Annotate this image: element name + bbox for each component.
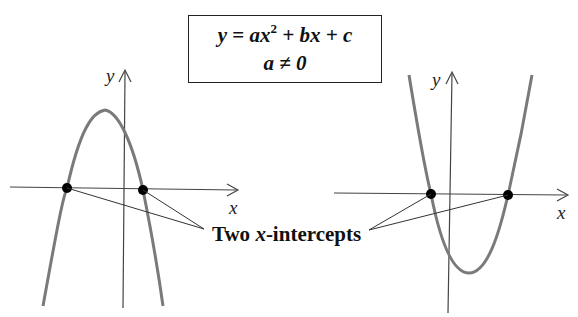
right-graph — [334, 72, 568, 313]
right-parabola — [409, 75, 532, 273]
left-graph — [10, 70, 238, 308]
left-y-axis-label: y — [106, 66, 114, 85]
right-x-axis-label: x — [557, 203, 565, 222]
formula-box: y = ax2 + bx + c a ≠ 0 — [188, 15, 382, 83]
right-y-axis-label: y — [432, 70, 440, 89]
left-parabola — [43, 110, 163, 306]
intercepts-callout: Two x-intercepts — [212, 222, 361, 246]
left-leader-line-2 — [143, 190, 204, 229]
right-leader-line-1 — [369, 194, 431, 230]
left-y-axis — [123, 72, 125, 308]
left-x-axis-label: x — [229, 198, 237, 217]
left-leader-line-1 — [67, 188, 204, 229]
nonzero-condition: a ≠ 0 — [189, 50, 381, 76]
quadratic-equation: y = ax2 + bx + c — [189, 22, 381, 48]
